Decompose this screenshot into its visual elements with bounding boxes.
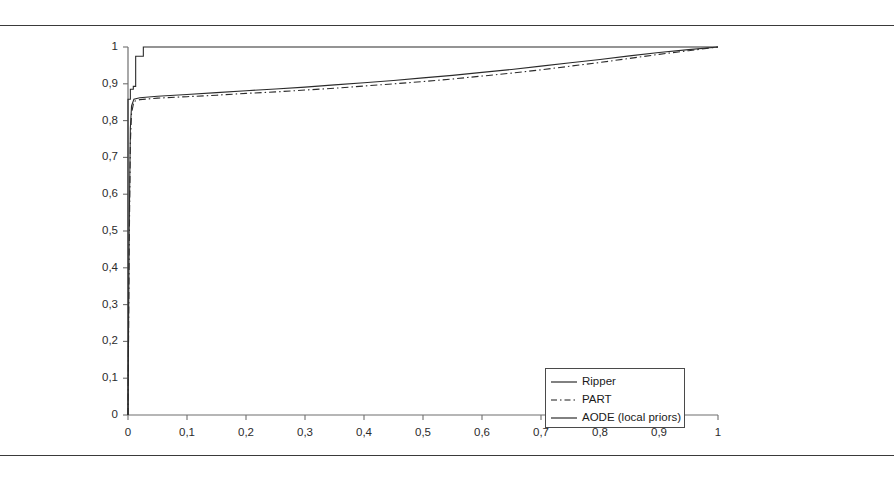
legend-item-ripper: Ripper — [551, 373, 679, 391]
x-axis-tick-label: 0,5 — [398, 427, 448, 439]
y-axis-tick-label: 0,4 — [60, 262, 118, 274]
x-axis-tick-label: 0,1 — [162, 427, 212, 439]
y-axis-tick-label: 0 — [60, 409, 118, 421]
y-axis-tick-label: 1 — [60, 41, 118, 53]
chart-legend: Ripper PART AODE (local priors) — [545, 368, 685, 428]
x-axis-tick-label: 0,3 — [280, 427, 330, 439]
x-axis-tick-label: 0,9 — [634, 427, 684, 439]
x-axis-tick-label: 0 — [103, 427, 153, 439]
scanned-page: 00,10,20,30,40,50,60,70,80,91 00,10,20,3… — [0, 0, 894, 482]
y-axis-tick-label: 0,2 — [60, 335, 118, 347]
axes — [128, 47, 718, 415]
x-axis-tick-label: 0,2 — [221, 427, 271, 439]
x-axis-tick-label: 1 — [693, 427, 743, 439]
horizontal-rule-bottom — [0, 455, 894, 456]
legend-label-ripper: Ripper — [582, 376, 616, 388]
legend-item-aode: AODE (local priors) — [551, 409, 679, 427]
x-axis-tick-label: 0,8 — [575, 427, 625, 439]
series-line-part — [128, 47, 718, 415]
plot-canvas — [0, 30, 894, 450]
legend-line-sample-solid — [551, 377, 577, 387]
y-axis-tick-label: 0,6 — [60, 188, 118, 200]
y-axis-tick-label: 0,1 — [60, 372, 118, 384]
y-axis-tick-label: 0,8 — [60, 115, 118, 127]
x-axis-tick-label: 0,7 — [516, 427, 566, 439]
legend-item-part: PART — [551, 391, 679, 409]
legend-label-part: PART — [582, 394, 612, 406]
legend-label-aode: AODE (local priors) — [582, 412, 681, 424]
legend-line-sample-solid-aode — [551, 413, 577, 423]
horizontal-rule-top — [0, 25, 894, 26]
data-series — [128, 47, 718, 415]
y-axis-tick-label: 0,7 — [60, 151, 118, 163]
y-axis-tick-label: 0,3 — [60, 299, 118, 311]
legend-line-sample-dash-dot — [551, 395, 577, 405]
series-line-aode-local-priors — [128, 47, 718, 415]
x-axis-tick-label: 0,6 — [457, 427, 507, 439]
series-line-ripper — [128, 47, 718, 415]
y-axis-ticks — [123, 47, 128, 415]
roc-chart-figure: 00,10,20,30,40,50,60,70,80,91 00,10,20,3… — [0, 30, 894, 450]
y-axis-tick-label: 0,9 — [60, 78, 118, 90]
x-axis-tick-label: 0,4 — [339, 427, 389, 439]
y-axis-tick-label: 0,5 — [60, 225, 118, 237]
